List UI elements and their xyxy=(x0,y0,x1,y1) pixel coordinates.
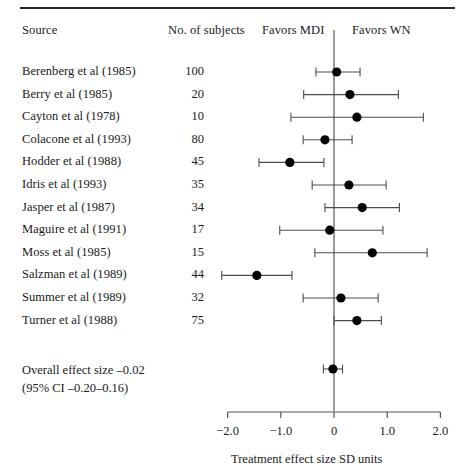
study-datapoint xyxy=(325,203,399,212)
effect-size-marker xyxy=(344,180,353,189)
overall-effect-marker xyxy=(328,364,337,373)
effect-size-marker xyxy=(352,316,361,325)
effect-size-marker xyxy=(336,293,345,302)
study-datapoint xyxy=(259,158,324,167)
effect-size-marker xyxy=(325,226,334,235)
effect-size-marker xyxy=(352,113,361,122)
x-axis-tick-label: −1.0 xyxy=(261,424,301,439)
effect-size-marker xyxy=(358,203,367,212)
x-axis-caption: Treatment effect size SD units xyxy=(231,452,382,467)
effect-size-marker xyxy=(285,158,294,167)
study-datapoint xyxy=(303,293,378,302)
study-datapoint xyxy=(316,67,360,76)
effect-size-marker xyxy=(368,248,377,257)
study-datapoint xyxy=(291,113,423,122)
overall-datapoint xyxy=(323,364,342,373)
study-datapoint xyxy=(303,135,352,144)
forest-plot-figure: Source No. of subjects Favors MDI Favors… xyxy=(0,0,467,476)
effect-size-marker xyxy=(320,135,329,144)
x-axis-tick-label: −2.0 xyxy=(208,424,248,439)
study-datapoint xyxy=(304,90,399,99)
x-axis-tick-label: 1.0 xyxy=(367,424,407,439)
study-datapoint xyxy=(280,226,383,235)
x-axis-tick-label: 0 xyxy=(314,424,354,439)
plot-canvas xyxy=(0,0,467,476)
study-datapoint xyxy=(312,180,386,189)
effect-size-marker xyxy=(332,67,341,76)
study-datapoint xyxy=(315,248,427,257)
study-datapoint xyxy=(222,271,292,280)
effect-size-marker xyxy=(345,90,354,99)
effect-size-marker xyxy=(252,271,261,280)
x-axis-tick-label: 2.0 xyxy=(420,424,460,439)
study-datapoint xyxy=(334,316,381,325)
